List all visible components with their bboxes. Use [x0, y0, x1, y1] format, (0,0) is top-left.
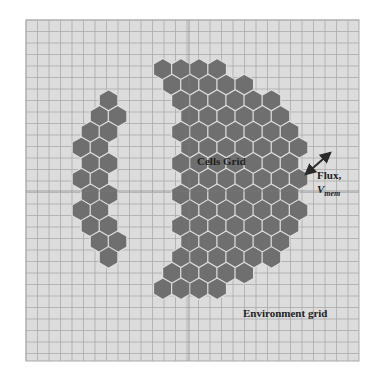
environment-grid-label: Environment grid: [243, 307, 327, 319]
cells-grid: [72, 59, 308, 300]
flux-vmem-label: Flux, Vmem: [317, 168, 341, 201]
cells-grid-label: Cells Grid: [197, 155, 246, 167]
flux-label: Flux,: [317, 168, 341, 182]
vmem-label: Vmem: [317, 182, 341, 201]
cell-environment-diagram: Cells Grid Environment grid Flux, Vmem: [0, 0, 378, 382]
vmem-subscript: mem: [324, 189, 340, 198]
